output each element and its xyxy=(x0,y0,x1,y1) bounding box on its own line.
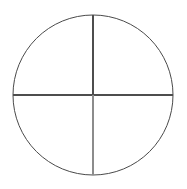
figure-canvas xyxy=(0,0,187,189)
circle-diagram-svg xyxy=(0,0,187,189)
